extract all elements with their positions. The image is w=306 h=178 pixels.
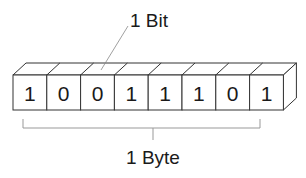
byte-bracket: [23, 119, 260, 140]
bit-value: 1: [159, 82, 171, 105]
byte-label: 1 Byte: [126, 147, 180, 168]
bit-value: 0: [92, 82, 104, 105]
byte-diagram: 10011101 1 Bit 1 Byte: [0, 0, 306, 178]
bit-label: 1 Bit: [130, 10, 169, 31]
bit-value: 1: [261, 82, 273, 105]
bit-value: 0: [58, 82, 70, 105]
bit-value: 1: [193, 82, 205, 105]
bit-cell: 1: [13, 75, 47, 110]
bit-value: 1: [24, 82, 36, 105]
bit-boxes: 10011101: [13, 63, 296, 110]
bit-value: 0: [227, 82, 239, 105]
bit-value: 1: [125, 82, 137, 105]
